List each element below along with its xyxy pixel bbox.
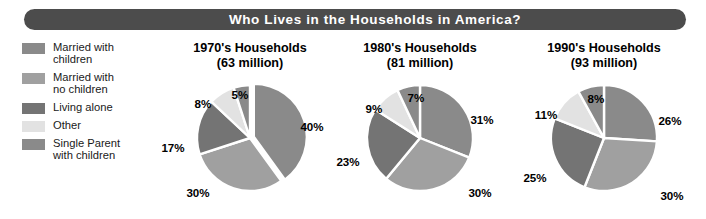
pie-title-1970s: 1970's Households(63 million)	[160, 41, 340, 70]
slice-percent-label: 30%	[660, 189, 683, 202]
legend-label-married-with-children: Married with children	[53, 41, 114, 66]
legend: Married with childrenMarried with no chi…	[22, 41, 162, 166]
pie-canvas: 26%30%25%11%8%	[506, 70, 702, 210]
slice-percent-label: 30%	[186, 186, 209, 199]
slice-percent-label: 30%	[468, 186, 491, 199]
pie-canvas: 31%30%23%9%7%	[330, 70, 510, 210]
slice-percent-label: 8%	[195, 97, 212, 110]
chart-title-banner: Who Lives in the Households in America?	[24, 9, 686, 30]
slice-percent-label: 7%	[408, 91, 425, 104]
legend-swatch-other	[22, 121, 45, 132]
legend-label-single-parent-with-children: Single Parent with children	[53, 137, 120, 162]
pie-title-line: 1990's Households	[506, 41, 702, 56]
pie-canvas: 40%30%17%8%5%	[160, 70, 340, 210]
pie-title-1990s: 1990's Households(93 million)	[506, 41, 702, 70]
legend-item-other: Other	[22, 119, 162, 132]
legend-label-married-no-children: Married with no children	[53, 71, 114, 96]
page-title: Who Lives in the Households in America?	[189, 12, 521, 27]
pie-subtitle-line: (93 million)	[506, 56, 702, 71]
slice-percent-label: 26%	[658, 114, 681, 127]
legend-item-married-with-children: Married with children	[22, 41, 162, 66]
slice-percent-label: 17%	[161, 141, 184, 154]
slice-percent-label: 8%	[588, 92, 605, 105]
pie-chart-1980s: 1980's Households(81 million)31%30%23%9%…	[330, 41, 510, 210]
slice-percent-label: 9%	[366, 102, 383, 115]
slice-percent-label: 31%	[470, 113, 493, 126]
legend-swatch-married-no-children	[22, 73, 45, 84]
slice-percent-label: 11%	[535, 108, 558, 121]
legend-swatch-married-with-children	[22, 43, 45, 54]
slice-percent-label: 40%	[300, 120, 323, 133]
pie-subtitle-line: (63 million)	[160, 56, 340, 71]
slice-percent-label: 23%	[336, 155, 359, 168]
legend-label-other: Other	[53, 119, 81, 131]
pie-title-1980s: 1980's Households(81 million)	[330, 41, 510, 70]
legend-item-living-alone: Living alone	[22, 101, 162, 114]
slice-percent-label: 5%	[232, 88, 249, 101]
pie-title-line: 1970's Households	[160, 41, 340, 56]
legend-item-single-parent-with-children: Single Parent with children	[22, 137, 162, 162]
pie-chart-1990s: 1990's Households(93 million)26%30%25%11…	[506, 41, 702, 210]
pie-subtitle-line: (81 million)	[330, 56, 510, 71]
legend-swatch-living-alone	[22, 103, 45, 114]
pie-chart-1970s: 1970's Households(63 million)40%30%17%8%…	[160, 41, 340, 210]
legend-item-married-no-children: Married with no children	[22, 71, 162, 96]
pie-title-line: 1980's Households	[330, 41, 510, 56]
legend-label-living-alone: Living alone	[53, 101, 113, 113]
slice-percent-label: 25%	[523, 171, 546, 184]
pie-slice-married-with-children	[604, 85, 657, 141]
legend-swatch-single-parent-with-children	[22, 139, 45, 150]
